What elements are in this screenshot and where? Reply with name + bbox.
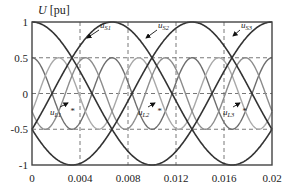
annotation-star-marker: * bbox=[242, 106, 247, 116]
y-tick-label: 0 bbox=[23, 88, 29, 100]
annotation-arrow bbox=[148, 103, 155, 107]
x-tick-label: 0 bbox=[29, 172, 35, 184]
y-axis-label: U [pu] bbox=[38, 3, 70, 17]
y-tick-label: -1 bbox=[19, 159, 28, 171]
annotation-arrow bbox=[233, 30, 240, 36]
annotation-star-marker: * bbox=[157, 106, 162, 116]
annotation-uL2: uL2 bbox=[138, 107, 150, 118]
x-tick-label: 0.008 bbox=[116, 172, 141, 184]
gridlines bbox=[32, 22, 272, 165]
annotation-arrow bbox=[233, 103, 240, 107]
x-tick-label: 0.004 bbox=[68, 172, 93, 184]
x-tick-label: 0.016 bbox=[212, 172, 237, 184]
annotation-uL3: uL3 bbox=[223, 107, 235, 118]
y-axis-label-unit: [pu] bbox=[47, 3, 70, 17]
x-tick-label: 0.012 bbox=[164, 172, 189, 184]
y-tick-label: -0.5 bbox=[11, 123, 29, 135]
y-tick-label: 1 bbox=[23, 16, 29, 28]
y-tick-label: 0.5 bbox=[14, 52, 28, 64]
annotation-star-marker: * bbox=[70, 106, 75, 116]
y-axis-ticks: 10.50-0.5-1 bbox=[11, 16, 29, 171]
chart: 00.0040.0080.0120.0160.02 10.50-0.5-1 U … bbox=[0, 0, 304, 188]
x-axis-ticks: 00.0040.0080.0120.0160.02 bbox=[29, 172, 281, 184]
x-tick-label: 0.02 bbox=[262, 172, 281, 184]
annotation-arrow bbox=[146, 30, 157, 38]
